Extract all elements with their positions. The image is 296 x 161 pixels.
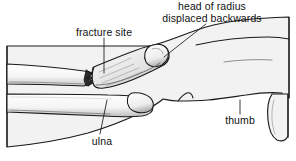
thumb-shape bbox=[268, 94, 288, 141]
radius-head-cap bbox=[145, 44, 169, 66]
label-thumb: thumb bbox=[218, 115, 262, 127]
label-fracture-site: fracture site bbox=[60, 27, 148, 39]
label-ulna: ulna bbox=[80, 136, 124, 148]
label-head-of-radius: head of radius displaced backwards bbox=[148, 1, 276, 24]
thumb-group bbox=[268, 94, 288, 141]
label-head-of-radius-line2: displaced backwards bbox=[148, 13, 276, 25]
ulna-bone-group bbox=[7, 93, 153, 117]
medical-illustration-figure: head of radius displaced backwards fract… bbox=[0, 0, 296, 161]
forearm-fracture-drawing bbox=[0, 0, 296, 161]
label-head-of-radius-line1: head of radius bbox=[148, 1, 276, 13]
